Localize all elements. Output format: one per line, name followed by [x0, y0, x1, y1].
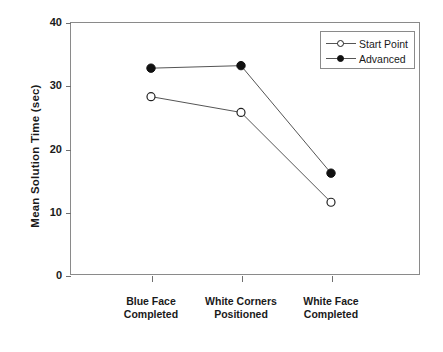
y-tick-label: 30 — [22, 78, 62, 93]
y-tick-label: 10 — [22, 205, 62, 220]
x-axis-label-line: Completed — [261, 308, 401, 321]
x-tick-mark — [242, 276, 243, 282]
y-tick-mark — [66, 23, 71, 24]
legend-item-advanced: Advanced — [321, 51, 414, 66]
y-tick-label: 20 — [22, 142, 62, 157]
filled-circle-marker-icon — [326, 52, 356, 66]
x-axis-label-2: White FaceCompleted — [261, 295, 401, 321]
x-axis-label-line: White Face — [261, 295, 401, 308]
line-chart-figure: Mean Solution Time (sec) 010203040 Blue … — [0, 0, 443, 352]
chart-legend: Start Point Advanced — [320, 31, 415, 69]
x-tick-mark — [152, 276, 153, 282]
y-tick-mark — [66, 276, 71, 277]
y-tick-label: 40 — [22, 15, 62, 30]
legend-label-advanced: Advanced — [356, 52, 406, 66]
y-tick-mark — [66, 213, 71, 214]
open-circle-marker-icon — [326, 37, 356, 51]
legend-item-start-point: Start Point — [321, 36, 414, 51]
y-tick-label: 0 — [22, 268, 62, 283]
legend-label-start-point: Start Point — [356, 37, 408, 51]
y-tick-mark — [66, 150, 71, 151]
x-tick-mark — [332, 276, 333, 282]
y-tick-mark — [66, 86, 71, 87]
